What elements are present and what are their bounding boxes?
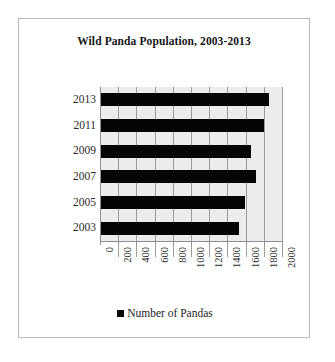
- x-tick-label: 1800: [268, 247, 279, 268]
- tick-mark: [118, 241, 119, 245]
- bar: [101, 170, 256, 183]
- tick-mark: [227, 241, 228, 245]
- tick-mark: [209, 241, 210, 245]
- tick-mark: [100, 241, 101, 245]
- x-tick-label: 200: [122, 247, 133, 263]
- bar: [101, 222, 239, 235]
- chart-title: Wild Panda Population, 2003-2013: [19, 35, 309, 47]
- category-label: 2013: [73, 87, 96, 113]
- tick-mark: [173, 241, 174, 245]
- plot-wrapper: 201320112009200720052003 020040060080010…: [100, 87, 300, 257]
- legend-swatch-icon: [117, 310, 124, 317]
- tick-mark: [264, 241, 265, 245]
- category-label: 2009: [73, 138, 96, 164]
- bar-row: 2013: [101, 87, 269, 113]
- x-tick-label: 2000: [286, 247, 297, 268]
- x-tick-label: 1200: [213, 247, 224, 268]
- bar-row: 2007: [101, 164, 256, 190]
- bar: [101, 119, 264, 132]
- gridline: [282, 87, 283, 257]
- category-label: 2003: [73, 215, 96, 241]
- bar-row: 2011: [101, 113, 264, 139]
- tick-mark: [155, 241, 156, 245]
- bar-row: 2003: [101, 215, 239, 241]
- tick-mark: [246, 241, 247, 245]
- category-label: 2007: [73, 164, 96, 190]
- tick-mark: [136, 241, 137, 245]
- bar: [101, 93, 269, 106]
- x-tick-label: 1000: [195, 247, 206, 268]
- x-tick-label: 0: [104, 247, 115, 252]
- bar: [101, 145, 251, 158]
- x-tick-label: 1400: [231, 247, 242, 268]
- category-label: 2011: [73, 113, 96, 139]
- x-tick-label: 600: [159, 247, 170, 263]
- chart-legend: Number of Pandas: [19, 307, 311, 319]
- bar-row: 2009: [101, 138, 251, 164]
- bar-row: 2005: [101, 190, 245, 216]
- tick-mark: [191, 241, 192, 245]
- chart-frame: Wild Panda Population, 2003-2013 2013201…: [18, 18, 310, 338]
- x-tick-label: 400: [140, 247, 151, 263]
- x-tick-label: 800: [177, 247, 188, 263]
- legend-label: Number of Pandas: [127, 307, 213, 319]
- bar: [101, 196, 245, 209]
- x-tick-label: 1600: [250, 247, 261, 268]
- category-label: 2005: [73, 190, 96, 216]
- tick-mark: [282, 241, 283, 245]
